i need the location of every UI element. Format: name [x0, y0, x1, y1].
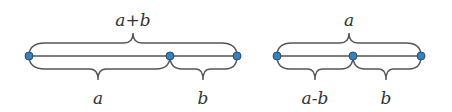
bottom-brace-a-minus-b — [277, 56, 353, 80]
top-brace — [277, 33, 421, 56]
point-middle — [349, 52, 357, 60]
bottom-brace-b — [170, 56, 237, 80]
point-start — [25, 52, 33, 60]
label-a-minus-b: a-b — [302, 88, 329, 108]
point-end — [233, 52, 241, 60]
top-brace — [29, 33, 237, 56]
segment-diagrams: a+b a b a a-b b — [0, 0, 452, 112]
point-start — [273, 52, 281, 60]
label-b: b — [198, 88, 209, 108]
bottom-brace-b — [353, 56, 421, 80]
point-end — [417, 52, 425, 60]
label-a: a — [344, 10, 354, 30]
sum-diagram: a+b a b — [25, 10, 241, 108]
difference-diagram: a a-b b — [273, 10, 425, 108]
point-middle — [166, 52, 174, 60]
label-a: a — [93, 88, 103, 108]
bottom-brace-a — [29, 56, 170, 80]
label-a-plus-b: a+b — [115, 10, 150, 30]
label-b: b — [381, 88, 392, 108]
